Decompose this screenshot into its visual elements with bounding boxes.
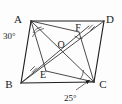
angle-leader-lines bbox=[76, 80, 90, 90]
side-DC bbox=[94, 21, 104, 82]
tick-on-BE-a bbox=[31, 67, 35, 71]
point-label-F: F bbox=[75, 22, 81, 33]
vertex-label-B: B bbox=[5, 78, 12, 90]
vertex-label-D: D bbox=[106, 13, 114, 25]
segment-BF bbox=[21, 26, 89, 83]
vertex-label-C: C bbox=[99, 78, 106, 90]
geometry-canvas: A D B C O E F 30° 25° bbox=[0, 0, 122, 104]
geometry-figure: A D B C O E F 30° 25° bbox=[0, 0, 122, 104]
segment-EC bbox=[46, 71, 94, 82]
point-label-O: O bbox=[57, 39, 64, 50]
side-CB bbox=[21, 82, 94, 83]
point-label-E: E bbox=[40, 69, 46, 80]
angle-label-25: 25° bbox=[64, 93, 77, 103]
vertex-label-A: A bbox=[14, 13, 22, 25]
angle-label-30: 30° bbox=[3, 31, 16, 41]
side-BA bbox=[21, 21, 31, 83]
